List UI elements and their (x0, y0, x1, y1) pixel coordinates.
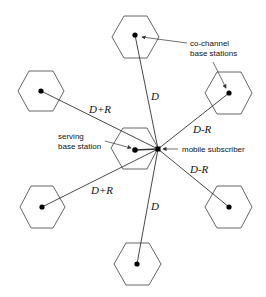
base-station-lower-left-icon (39, 204, 44, 209)
base-station-upper-right-icon (226, 90, 231, 95)
mobile-subscriber-icon (156, 147, 161, 152)
line-upper-right (158, 93, 229, 149)
line-serving (135, 149, 158, 150)
base-station-upper-left-icon (38, 88, 43, 93)
base-station-top-icon (132, 32, 137, 37)
distance-label-upper-left: D+R (88, 103, 111, 115)
mobile-subscriber-label: mobile subscriber (182, 145, 245, 154)
serving-label-line2: base station (58, 142, 101, 151)
distance-label-bottom: D (150, 200, 159, 212)
line-lower-right (158, 149, 229, 207)
distance-label-upper-right: D-R (192, 123, 212, 135)
arrow-to-serving-station-icon (105, 141, 131, 148)
base-station-serving-icon (132, 147, 138, 153)
co-channel-label-line1: co-channel (190, 39, 229, 48)
serving-label-line1: serving (58, 132, 84, 141)
distance-label-top: D (150, 90, 159, 102)
distance-label-lower-right: D-R (189, 163, 209, 175)
line-lower-left (42, 149, 158, 207)
base-station-bottom-icon (134, 261, 139, 266)
base-station-lower-right-icon (226, 204, 231, 209)
distance-label-lower-left: D+R (90, 184, 113, 196)
cochannel-diagram: D D+R D-R D-R D+R D co-channel base stat… (0, 0, 266, 297)
arrow-to-top-station-icon (142, 37, 187, 43)
co-channel-label-line2: base stations (190, 49, 237, 58)
